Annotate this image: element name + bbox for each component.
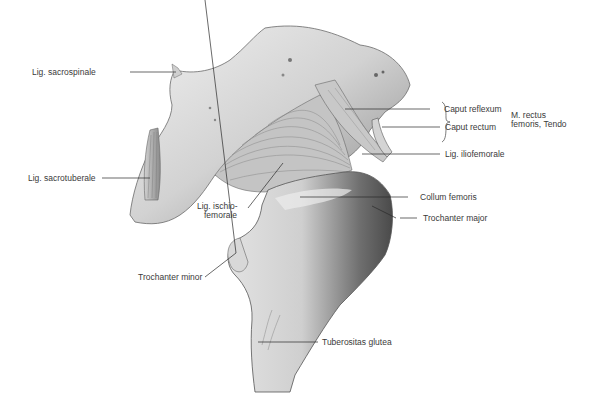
label-caput-rectum: Caput rectum — [445, 122, 496, 132]
hip-joint-illustration — [0, 0, 594, 416]
label-lig-sacrospinale: Lig. sacrospinale — [32, 67, 96, 77]
label-tuberositas-glutea: Tuberositas glutea — [322, 337, 392, 347]
label-lig-ischiofemorale-line2: femorale — [204, 211, 237, 220]
label-trochanter-minor: Trochanter minor — [138, 272, 202, 282]
label-trochanter-major: Trochanter major — [423, 213, 487, 223]
label-m-rectus-line2: femoris, Tendo — [511, 120, 567, 129]
label-lig-sacrotuberale: Lig. sacrotuberale — [28, 173, 96, 183]
label-caput-reflexum: Caput reflexum — [444, 104, 502, 114]
label-collum-femoris: Collum femoris — [420, 192, 477, 202]
label-lig-iliofemorale: Lig. iliofemorale — [445, 149, 505, 159]
